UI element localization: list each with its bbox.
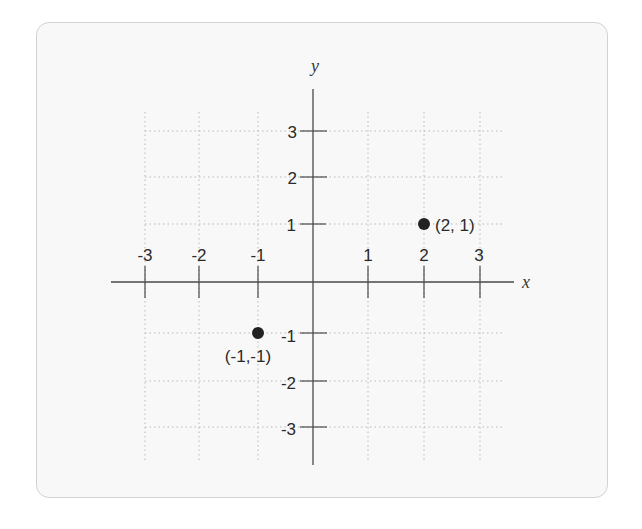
point-label-2-1: (2, 1) <box>435 216 475 235</box>
y-tick-label: -1 <box>281 327 296 346</box>
x-tick-label: 1 <box>363 246 372 265</box>
coordinate-plane: -3 -2 -1 1 2 3 3 2 1 -1 -2 -3 y x (2, 1)… <box>0 0 642 529</box>
x-axis-label: x <box>521 272 530 292</box>
y-tick-label: 1 <box>287 216 296 235</box>
data-points: (2, 1) (-1,-1) <box>225 216 475 366</box>
x-tick-label: 2 <box>419 246 428 265</box>
y-tick-label: 2 <box>288 169 297 188</box>
point-2-1 <box>418 218 430 230</box>
point-neg1-neg1 <box>252 327 264 339</box>
y-tick-labels: 3 2 1 -1 -2 -3 <box>281 123 297 439</box>
y-axis-label: y <box>309 56 319 76</box>
y-tick-label: 3 <box>288 123 297 142</box>
x-tick-label: 3 <box>474 246 483 265</box>
x-tick-label: -1 <box>250 246 265 265</box>
point-label-neg1-neg1: (-1,-1) <box>225 347 271 366</box>
x-tick-label: -3 <box>137 246 152 265</box>
x-tick-labels: -3 -2 -1 1 2 3 <box>137 246 483 265</box>
y-tick-label: -2 <box>281 374 296 393</box>
y-tick-label: -3 <box>281 420 296 439</box>
x-tick-label: -2 <box>191 246 206 265</box>
